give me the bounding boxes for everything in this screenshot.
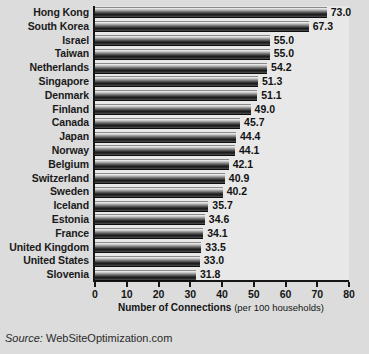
bar-fill (95, 63, 267, 74)
x-tick (158, 282, 160, 287)
bar-fill (95, 21, 309, 32)
bar-fill (95, 187, 223, 198)
bar-value-label: 54.2 (267, 61, 291, 75)
x-tick-label: 50 (248, 288, 260, 300)
bar-row: Switzerland40.9 (0, 172, 369, 186)
bar (95, 118, 240, 129)
bar-category-label: Netherlands (29, 61, 89, 75)
bar-row: Hong Kong73.0 (0, 6, 369, 20)
bar (95, 145, 235, 156)
bar-value-label: 44.1 (235, 144, 259, 158)
bar (95, 173, 225, 184)
bar-value-label: 49.0 (251, 103, 275, 117)
bar-fill (95, 118, 240, 129)
bar-fill (95, 173, 225, 184)
bar-fill (95, 76, 258, 87)
bar-row: Iceland35.7 (0, 199, 369, 213)
source-name: WebSiteOptimization.com (46, 332, 172, 344)
x-tick (126, 282, 128, 287)
bar-row: Belgium42.1 (0, 158, 369, 172)
bar (95, 270, 196, 281)
bar-value-label: 73.0 (327, 6, 351, 20)
bar-category-label: Estonia (52, 213, 89, 227)
x-tick-label: 20 (153, 288, 165, 300)
bar-chart: Hong Kong73.0South Korea67.3Israel55.0Ta… (0, 0, 369, 300)
bar (95, 49, 270, 60)
x-tick-label: 70 (311, 288, 323, 300)
bar (95, 90, 257, 101)
bar-fill (95, 214, 205, 225)
bar-fill (95, 228, 203, 239)
bar-category-label: Finland (52, 103, 89, 117)
bar-value-label: 51.1 (257, 89, 281, 103)
bar-fill (95, 49, 270, 60)
x-tick-label: 60 (280, 288, 292, 300)
x-tick (94, 282, 96, 287)
x-tick (189, 282, 191, 287)
bar-row: Netherlands54.2 (0, 61, 369, 75)
bar-category-label: Belgium (48, 158, 89, 172)
bar-row: Norway44.1 (0, 144, 369, 158)
bar-category-label: Canada (52, 116, 89, 130)
x-tick-label: 0 (92, 288, 98, 300)
chart-figure: Hong Kong73.0South Korea67.3Israel55.0Ta… (0, 0, 369, 354)
bar-fill (95, 159, 229, 170)
bar (95, 187, 223, 198)
bar-category-label: South Korea (28, 20, 89, 34)
bar-fill (95, 104, 251, 115)
bar-row: Japan44.4 (0, 130, 369, 144)
bar-row: United States33.0 (0, 254, 369, 268)
bar-row: Slovenia31.8 (0, 268, 369, 282)
bar-category-label: Taiwan (55, 47, 89, 61)
x-axis-title-bold: Number of Connections (118, 302, 231, 313)
bar-value-label: 42.1 (229, 158, 253, 172)
x-tick-label: 10 (121, 288, 133, 300)
bar-category-label: Japan (59, 130, 89, 144)
x-tick (285, 282, 287, 287)
bar-value-label: 44.4 (236, 130, 260, 144)
bar-category-label: United Kingdom (9, 241, 89, 255)
x-tick-label: 80 (343, 288, 355, 300)
bar-value-label: 33.5 (201, 241, 225, 255)
bar (95, 21, 309, 32)
bar-fill (95, 90, 257, 101)
bar-value-label: 34.6 (205, 213, 229, 227)
bar-row: South Korea67.3 (0, 20, 369, 34)
bar-row: Israel55.0 (0, 34, 369, 48)
bar-row: Canada45.7 (0, 116, 369, 130)
bar (95, 35, 270, 46)
x-tick-label: 40 (216, 288, 228, 300)
x-tick (316, 282, 318, 287)
bar-row: France34.1 (0, 227, 369, 241)
bar-value-label: 40.9 (225, 172, 249, 186)
bar (95, 76, 258, 87)
bar-row: Sweden40.2 (0, 185, 369, 199)
bar-fill (95, 256, 200, 267)
bar-fill (95, 270, 196, 281)
x-tick (253, 282, 255, 287)
bar-value-label: 67.3 (309, 20, 333, 34)
bar-row: United Kingdom33.5 (0, 241, 369, 255)
bar-row: Estonia34.6 (0, 213, 369, 227)
bar-value-label: 40.2 (223, 185, 247, 199)
bar-category-label: Sweden (50, 185, 89, 199)
bar-category-label: Slovenia (47, 268, 89, 282)
bar-category-label: Switzerland (32, 172, 89, 186)
x-tick (348, 282, 350, 287)
bar-category-label: United States (23, 254, 89, 268)
bar-rows: Hong Kong73.0South Korea67.3Israel55.0Ta… (0, 6, 369, 282)
bar-fill (95, 201, 208, 212)
bar-value-label: 34.1 (203, 227, 227, 241)
bar (95, 159, 229, 170)
bar (95, 104, 251, 115)
bar-value-label: 31.8 (196, 268, 220, 282)
bar (95, 228, 203, 239)
bar-category-label: Israel (62, 34, 89, 48)
bar (95, 63, 267, 74)
bar-category-label: Singapore (39, 75, 89, 89)
bar (95, 214, 205, 225)
x-tick-label: 30 (184, 288, 196, 300)
x-tick (221, 282, 223, 287)
bar-fill (95, 145, 235, 156)
bar-row: Finland49.0 (0, 103, 369, 117)
